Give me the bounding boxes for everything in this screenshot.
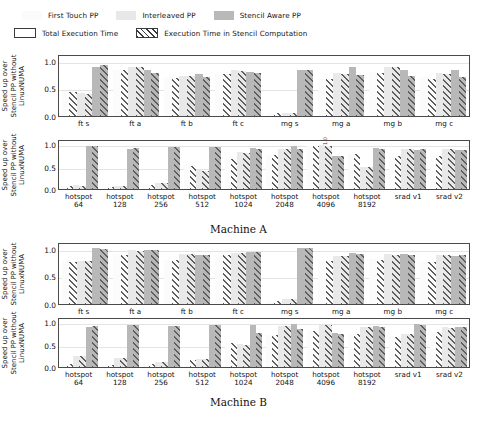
bar-total-stencil-aware — [92, 248, 100, 304]
bar-value-annotation: 1.0 — [322, 137, 328, 145]
bar-stencil-stencil-aware — [459, 255, 467, 304]
x-tick-label: hotspot 256 — [140, 371, 181, 388]
bar-group — [100, 319, 141, 367]
legend-label-interleaved-pp: Interleaved PP — [142, 11, 195, 20]
x-tick-label: ft b — [161, 308, 213, 316]
bar-pair-stencil-aware — [246, 56, 261, 116]
figure-root: First Touch PP Interleaved PP Stencil Aw… — [0, 0, 477, 421]
bar-stencil-interleaved — [443, 74, 451, 116]
bar-pair-interleaved — [73, 141, 85, 189]
bar-total-interleaved — [384, 67, 392, 116]
bar-pair-first-touch — [113, 244, 128, 304]
bar-total-interleaved — [436, 73, 444, 116]
bar-total-first-touch — [369, 72, 377, 116]
bar-pair-first-touch — [369, 244, 384, 304]
bar-pair-stencil-aware — [414, 319, 426, 367]
bar-stencil-stencil-aware — [151, 250, 159, 304]
bar-total-interleaved — [333, 256, 341, 304]
bar-group — [141, 319, 182, 367]
bar-stencil-stencil-aware — [254, 73, 262, 116]
bar-total-stencil-aware — [349, 67, 357, 116]
bar-pair-interleaved — [73, 319, 85, 367]
bar-total-interleaved — [384, 254, 392, 304]
hatched-rect-swatch-icon — [136, 28, 158, 38]
y-tick-label: 0.0 — [44, 301, 56, 310]
bar-stencil-stencil-aware — [151, 73, 159, 116]
bar-group — [367, 244, 418, 304]
bar-stencil-stencil-aware — [256, 333, 262, 367]
x-tick-label: hotspot 512 — [182, 371, 223, 388]
y-tick-label: 0.0 — [44, 364, 56, 373]
bar-total-first-touch — [113, 70, 121, 116]
bar-pair-interleaved — [384, 244, 399, 304]
bar-stencil-first-touch — [172, 260, 180, 304]
bar-total-interleaved — [128, 250, 136, 304]
y-axis-label: Speed up overStencil PP withoutLinuxNUMA — [1, 47, 27, 125]
bar-total-first-touch — [164, 260, 172, 304]
bar-stencil-stencil-aware — [461, 150, 467, 189]
bar-stencil-interleaved — [392, 255, 400, 304]
bar-pair-interleaved — [384, 56, 399, 116]
bar-total-first-touch — [318, 260, 326, 304]
bar-pair-first-touch — [143, 319, 155, 367]
y-tick-label: 1.0 — [44, 245, 56, 254]
bar-pair-first-touch — [102, 319, 114, 367]
bar-stencil-first-touch — [69, 92, 77, 116]
bar-pair-interleaved — [278, 319, 290, 367]
bar-pair-first-touch — [348, 141, 360, 189]
x-tick-label: mg s — [264, 308, 316, 316]
bar-stencil-first-touch — [121, 70, 129, 116]
bar-stencil-stencil-aware — [305, 70, 313, 116]
x-tick-label: ft a — [110, 308, 162, 316]
bar-total-first-touch — [215, 74, 223, 116]
bar-total-interleaved — [179, 76, 187, 116]
bar-total-stencil-aware — [400, 70, 408, 116]
bar-stencil-stencil-aware — [100, 249, 108, 304]
bar-stencil-interleaved — [238, 71, 246, 116]
bar-pair-first-touch — [266, 141, 278, 189]
y-axis-ticks: 0.00.51.0 — [34, 55, 56, 117]
bar-pair-first-touch — [225, 141, 237, 189]
bar-pair-first-touch — [369, 56, 384, 116]
bar-pair-interleaved — [360, 319, 372, 367]
x-tick-label: hotspot 512 — [182, 193, 223, 210]
plot-area — [58, 55, 470, 117]
x-tick-label: mg c — [419, 308, 471, 316]
x-tick-label: ft c — [213, 308, 265, 316]
bar-stencil-stencil-aware — [408, 76, 416, 116]
bar-total-stencil-aware — [349, 253, 357, 304]
y-tick-label: 0.5 — [44, 163, 56, 172]
bar-pair-interleaved — [77, 56, 92, 116]
bar-stencil-interleaved — [392, 67, 400, 116]
bar-pair-first-touch — [267, 56, 282, 116]
bar-pair-stencil-aware — [127, 141, 139, 189]
bar-stencil-stencil-aware — [379, 327, 385, 367]
bar-pair-stencil-aware — [332, 319, 344, 367]
bar-pair-stencil-aware — [168, 319, 180, 367]
bar-group — [223, 319, 264, 367]
bar-stencil-first-touch — [69, 262, 77, 304]
bar-groups — [59, 244, 469, 304]
y-axis-ticks: 0.00.51.0 — [34, 140, 56, 190]
bar-group — [315, 244, 366, 304]
first-touch-swatch-icon — [22, 11, 42, 20]
x-tick-label: mg b — [367, 308, 419, 316]
bar-total-interleaved — [179, 254, 187, 304]
bar-pair-interleaved — [237, 319, 249, 367]
bar-stencil-interleaved — [136, 251, 144, 304]
x-tick-label: hotspot 4096 — [305, 371, 346, 388]
bar-group — [182, 141, 223, 189]
bar-total-first-touch — [267, 301, 275, 304]
bar-stencil-stencil-aware — [215, 147, 221, 189]
y-tick-label: 0.0 — [44, 186, 56, 195]
bar-pair-stencil-aware — [250, 141, 262, 189]
bar-total-first-touch — [267, 113, 275, 116]
bar-group — [264, 141, 305, 189]
bar-total-interleaved — [282, 113, 290, 116]
x-axis-ticks: hotspot 64hotspot 128hotspot 256hotspot … — [58, 193, 470, 210]
x-tick-label: hotspot 64 — [58, 193, 99, 210]
bar-pair-stencil-aware — [127, 319, 139, 367]
bar-stencil-interleaved — [85, 261, 93, 304]
bar-stencil-interleaved — [187, 254, 195, 304]
bar-pair-stencil-aware — [86, 319, 98, 367]
